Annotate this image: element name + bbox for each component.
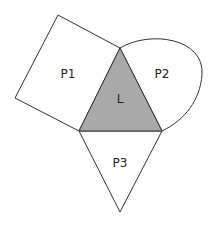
label-p2: P2 bbox=[155, 67, 170, 81]
label-p1: P1 bbox=[61, 67, 76, 81]
shape-p3-triangle bbox=[79, 131, 162, 212]
geometry-diagram: P1 P2 L P3 bbox=[0, 0, 215, 229]
label-p3: P3 bbox=[113, 156, 128, 170]
label-l: L bbox=[117, 92, 124, 106]
